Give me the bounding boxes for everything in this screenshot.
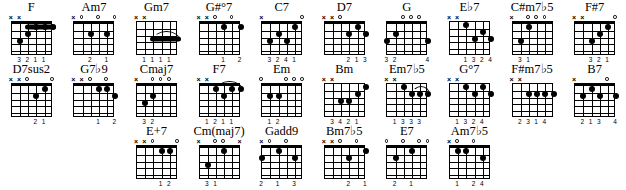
chord-name: F#m7♭5 <box>511 62 552 76</box>
fret-line <box>325 175 364 176</box>
chord-name: D7sus2 <box>13 62 51 76</box>
fret-line <box>450 91 489 92</box>
fret-line <box>200 113 239 114</box>
open-string-icon <box>416 138 423 145</box>
open-string-icon <box>424 138 431 145</box>
fret-line <box>74 100 113 101</box>
finger-dot <box>463 84 469 90</box>
chord-row: F3211Am721Gm71111G#°712C73241D7213G324E♭… <box>0 0 626 64</box>
muted-string-icon <box>320 76 327 83</box>
finger-dot <box>472 36 478 42</box>
muted-string-icon <box>141 14 148 21</box>
fretboard-grid <box>199 145 240 179</box>
chord-row: D7sus221G7♭912Cmaj732F71211Em12Bm3421Em7… <box>0 62 626 126</box>
chord-name: Em7♭5 <box>389 62 425 76</box>
finger-dot <box>488 36 494 42</box>
string-line <box>208 86 209 116</box>
string-markers <box>386 138 427 145</box>
fret-line <box>137 106 176 107</box>
fret-line <box>12 100 51 101</box>
chord-name: G°7 <box>459 62 479 76</box>
string-line <box>583 24 584 54</box>
fret-line <box>137 42 176 43</box>
finger-number: 1 <box>157 179 164 188</box>
open-string-icon <box>353 138 360 145</box>
chord-name: C7 <box>274 0 289 14</box>
fret-line <box>200 51 239 52</box>
muted-string-icon <box>236 138 243 145</box>
finger-dot <box>472 91 478 97</box>
muted-string-icon <box>195 76 202 83</box>
fretboard-grid <box>136 21 177 55</box>
fret-line <box>137 113 176 114</box>
finger-number: 2 <box>258 179 265 188</box>
fret-line <box>450 111 489 112</box>
finger-dot <box>238 24 244 30</box>
chord-name: Cm(maj7) <box>193 124 244 138</box>
open-string-icon <box>470 138 477 145</box>
string-line <box>270 148 271 178</box>
finger-dot <box>542 91 548 97</box>
fret-line <box>262 175 301 176</box>
finger-number: 2 <box>345 179 352 188</box>
finger-dot <box>355 91 361 97</box>
string-line <box>279 86 280 116</box>
fret-line <box>513 31 552 32</box>
fret-line <box>325 168 364 169</box>
finger-dot <box>589 38 595 44</box>
muted-string-icon <box>15 14 22 21</box>
chord-name: Bm7♭5 <box>326 124 363 138</box>
fret-line <box>325 104 364 105</box>
fretboard-grid <box>449 21 490 55</box>
chord-diagram: Gadd9213 <box>250 124 313 188</box>
fret-line <box>450 162 489 163</box>
string-markers <box>73 14 114 21</box>
finger-dot <box>384 38 390 44</box>
string-line <box>153 148 154 178</box>
muted-string-icon <box>516 76 523 83</box>
string-line <box>333 148 334 178</box>
muted-string-icon <box>78 76 85 83</box>
string-line <box>83 86 84 116</box>
string-markers <box>199 14 240 21</box>
string-line <box>358 148 359 178</box>
finger-dot <box>355 24 361 30</box>
open-string-icon <box>282 138 289 145</box>
fret-line <box>513 98 552 99</box>
string-line <box>170 86 171 116</box>
finger-dot <box>292 24 298 30</box>
string-line <box>404 148 405 178</box>
finger-dot <box>112 93 118 99</box>
muted-string-icon <box>132 138 139 145</box>
fret-line <box>200 44 239 45</box>
string-line <box>91 86 92 116</box>
chord-name: Gm7 <box>144 0 169 14</box>
string-markers <box>73 76 114 83</box>
chord-diagram: F3211 <box>0 0 63 64</box>
string-markers <box>386 14 427 21</box>
open-string-icon <box>111 14 118 21</box>
muted-string-icon <box>195 138 202 145</box>
fret-line <box>74 113 113 114</box>
string-line <box>153 86 154 116</box>
chord-diagram: B72134 <box>563 62 626 126</box>
finger-dot <box>159 148 165 154</box>
string-line <box>232 148 233 178</box>
string-line <box>20 86 21 116</box>
finger-dot <box>480 84 486 90</box>
fretboard-grid <box>199 21 240 55</box>
fret-line <box>575 106 614 107</box>
fret-line <box>387 111 426 112</box>
finger-number: 2 <box>391 179 398 188</box>
open-string-icon <box>299 76 306 83</box>
muted-string-icon <box>258 14 265 21</box>
open-string-icon <box>165 76 172 83</box>
string-line <box>420 24 421 54</box>
finger-dot <box>597 93 603 99</box>
fret-line <box>513 104 552 105</box>
muted-string-icon <box>445 14 452 21</box>
fret-line <box>325 111 364 112</box>
fret-line <box>262 113 301 114</box>
open-string-icon <box>603 76 610 83</box>
finger-dot <box>363 31 369 37</box>
